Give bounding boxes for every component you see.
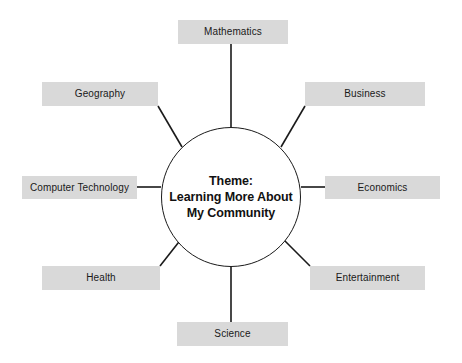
node-business[interactable]: Business [305,82,425,106]
center-theme-line-1: Theme: [169,173,292,189]
center-theme-line-3: My Community [169,205,292,221]
center-theme-text: Theme: Learning More About My Community [169,173,292,221]
node-economics[interactable]: Economics [325,176,440,199]
node-label-health: Health [86,273,116,283]
spoke-line-business [281,106,305,147]
node-label-mathematics: Mathematics [204,27,262,37]
node-entertainment[interactable]: Entertainment [310,266,425,290]
node-geography[interactable]: Geography [42,82,158,106]
node-health[interactable]: Health [42,266,160,290]
spoke-line-geography [158,106,182,147]
web-cluster-diagram: Theme: Learning More About My Community … [0,0,462,363]
center-theme-line-2: Learning More About [169,189,292,205]
node-label-science: Science [214,329,250,339]
node-label-entertainment: Entertainment [336,273,400,283]
node-label-economics: Economics [358,183,408,193]
center-theme-circle: Theme: Learning More About My Community [161,127,301,267]
node-label-geography: Geography [75,89,125,99]
node-computer-technology[interactable]: Computer Technology [22,176,137,199]
node-label-business: Business [344,89,385,99]
node-science[interactable]: Science [177,322,288,346]
spoke-line-entertainment [281,237,310,266]
node-label-computer-technology: Computer Technology [30,183,129,193]
node-mathematics[interactable]: Mathematics [178,20,288,44]
